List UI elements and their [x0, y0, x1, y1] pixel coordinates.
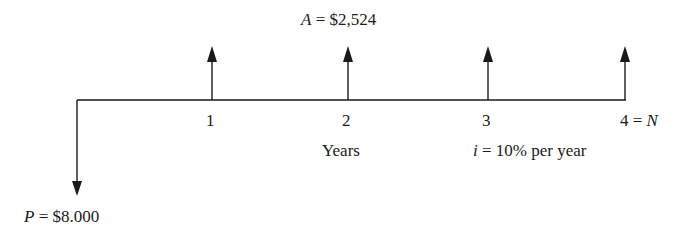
annuity-arrow-year-2 [343, 46, 353, 100]
present-value-arrow-down [72, 100, 82, 196]
annuity-arrow-year-3 [483, 46, 493, 100]
tick-label-2: 2 [342, 112, 351, 129]
annuity-value: $2,524 [329, 10, 376, 29]
tick-label-n: 4 = N [620, 112, 658, 129]
annuity-arrow-year-4 [620, 46, 630, 100]
annuity-var: A [301, 10, 311, 29]
interest-rate-label: i = 10% per year [473, 142, 586, 159]
present-value-label: P = $8.000 [24, 208, 99, 225]
axis-label-years: Years [322, 142, 360, 159]
annuity-label: A = $2,524 [301, 11, 376, 28]
annuity-arrow-year-1 [207, 46, 217, 100]
tick-label-3: 3 [482, 112, 491, 129]
tick-label-1: 1 [206, 112, 215, 129]
